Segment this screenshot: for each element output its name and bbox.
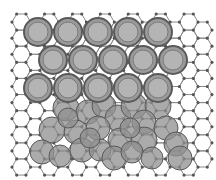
lattice-node <box>182 77 185 80</box>
lattice-node <box>80 12 83 15</box>
lattice-node <box>182 12 185 15</box>
lattice-node <box>210 29 213 32</box>
lattice-node <box>24 12 27 15</box>
lattice-node <box>15 12 18 15</box>
cluster-atom <box>141 147 163 169</box>
adatom-core <box>133 50 153 70</box>
lattice-node <box>52 12 55 15</box>
lattice-node <box>10 101 13 104</box>
lattice-node <box>66 165 69 168</box>
lattice-node <box>113 20 116 23</box>
lattice-node <box>206 37 209 40</box>
lattice-node <box>29 117 32 120</box>
lattice-node <box>15 125 18 128</box>
lattice-node <box>196 53 199 56</box>
adatom-core <box>103 50 123 70</box>
lattice-node <box>178 117 181 120</box>
lattice-node <box>192 173 195 176</box>
lattice-node <box>182 109 185 112</box>
lattice-node <box>210 141 213 144</box>
lattice-node <box>15 173 18 176</box>
hexagon-cell <box>193 151 212 167</box>
lattice-node <box>182 125 185 128</box>
lattice-node <box>192 12 195 15</box>
lattice-node <box>24 109 27 112</box>
lattice-node <box>29 165 32 168</box>
lattice-node <box>206 101 209 104</box>
lattice-node <box>206 53 209 56</box>
lattice-node <box>155 173 158 176</box>
lattice-node <box>210 157 213 160</box>
lattice-node <box>192 77 195 80</box>
lattice-node <box>192 125 195 128</box>
cluster-atom <box>49 145 71 167</box>
lattice-node <box>99 173 102 176</box>
hexagon-cell <box>193 119 212 135</box>
adatom-core <box>163 50 183 70</box>
hexagon-cell <box>193 38 212 54</box>
lattice-node <box>29 69 32 72</box>
lattice-node <box>192 109 195 112</box>
lattice-node <box>10 149 13 152</box>
lattice-node <box>24 173 27 176</box>
hexagon-cell <box>193 54 212 70</box>
adatom-core <box>28 78 48 98</box>
adatom-core <box>118 22 138 42</box>
hexagon-cell <box>193 103 212 119</box>
lattice-node <box>196 133 199 136</box>
lattice-node <box>24 61 27 64</box>
lattice-node <box>24 141 27 144</box>
cluster-atom <box>80 128 100 148</box>
lattice-node <box>164 12 167 15</box>
adatom-core <box>43 50 63 70</box>
lattice-node <box>38 69 41 72</box>
hexagon-cell <box>193 70 212 86</box>
lattice-node <box>52 173 55 176</box>
lattice-node <box>206 149 209 152</box>
hexagon-cell <box>193 22 212 38</box>
lattice-node <box>210 45 213 48</box>
lattice-node <box>196 165 199 168</box>
lattice-node <box>210 77 213 80</box>
lattice-node <box>10 69 13 72</box>
lattice-node <box>85 165 88 168</box>
lattice-node <box>210 125 213 128</box>
lattice-node <box>206 117 209 120</box>
lattice-node <box>164 173 167 176</box>
lattice-node <box>10 117 13 120</box>
lattice-node <box>127 173 130 176</box>
cluster-atom <box>121 141 143 163</box>
lattice-node <box>15 45 18 48</box>
lattice-node <box>38 117 41 120</box>
lattice-node <box>43 12 46 15</box>
lattice-node <box>182 173 185 176</box>
lattice-node <box>15 29 18 32</box>
lattice-node <box>29 53 32 56</box>
lattice-node <box>206 85 209 88</box>
adatom-core <box>28 22 48 42</box>
adatom-core <box>148 22 168 42</box>
lattice-node <box>15 109 18 112</box>
lattice-node <box>178 20 181 23</box>
adatom-core <box>88 78 108 98</box>
lattice-node <box>210 61 213 64</box>
adatom-core <box>118 78 138 98</box>
lattice-node <box>210 109 213 112</box>
lattice-node <box>10 165 13 168</box>
lattice-node <box>80 173 83 176</box>
lattice-node <box>206 69 209 72</box>
lattice-node <box>108 173 111 176</box>
cluster-atom <box>120 118 140 138</box>
lattice-node <box>206 20 209 23</box>
lattice-node <box>192 29 195 32</box>
disordered-atom-cluster <box>30 93 192 170</box>
lattice-node <box>15 61 18 64</box>
lattice-node <box>15 157 18 160</box>
lattice-node <box>15 141 18 144</box>
lattice-node <box>38 165 41 168</box>
cluster-atom <box>168 146 192 170</box>
lattice-node <box>192 61 195 64</box>
lattice-node <box>24 125 27 128</box>
lattice-node <box>196 69 199 72</box>
lattice-node <box>43 173 46 176</box>
